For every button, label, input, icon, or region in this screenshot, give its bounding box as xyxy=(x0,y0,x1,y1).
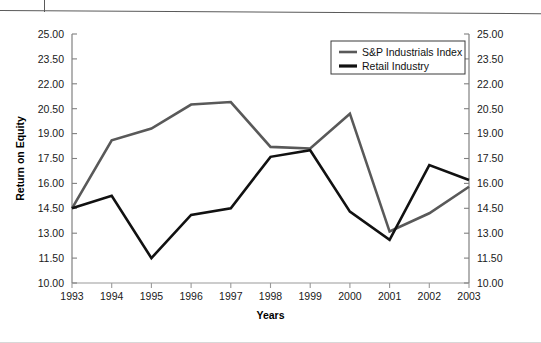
y-axis-tick-label-left: 14.50 xyxy=(38,202,64,214)
y-axis-tick-label-left: 13.00 xyxy=(38,227,64,239)
y-axis-tick-label-left: 17.50 xyxy=(38,152,64,164)
y-axis-tick-label-left: 20.50 xyxy=(38,103,64,115)
y-axis-tick-label-right: 16.00 xyxy=(477,177,503,189)
x-axis-title: Years xyxy=(256,309,284,321)
x-axis-tick-label: 2002 xyxy=(418,290,442,302)
y-axis-tick-label-right: 10.00 xyxy=(477,277,503,289)
x-axis-tick-label: 1993 xyxy=(60,290,84,302)
y-axis-tick-label-right: 25.00 xyxy=(477,28,503,40)
x-axis-tick-label: 2000 xyxy=(338,290,362,302)
x-axis-tick-label: 1995 xyxy=(140,290,164,302)
y-axis-tick-label-left: 22.00 xyxy=(38,78,64,90)
y-axis-tick-label-right: 17.50 xyxy=(477,152,503,164)
y-axis-tick-label-right: 14.50 xyxy=(477,202,503,214)
y-axis-tick-label-right: 19.00 xyxy=(477,127,503,139)
series-line-1 xyxy=(72,102,469,231)
y-axis-tick-label-left: 16.00 xyxy=(38,177,64,189)
y-axis-title: Return on Equity xyxy=(14,116,26,201)
x-axis-tick-label: 1996 xyxy=(179,290,203,302)
y-axis-tick-label-left: 10.00 xyxy=(38,277,64,289)
y-axis-tick-label-right: 22.00 xyxy=(477,78,503,90)
y-axis-tick-label-right: 13.00 xyxy=(477,227,503,239)
x-axis-tick-label: 1997 xyxy=(219,290,243,302)
series-line-2 xyxy=(72,150,469,258)
chart-svg: 25.0025.0023.5023.5022.0022.0020.5020.50… xyxy=(0,14,541,340)
y-axis-tick-label-right: 23.50 xyxy=(477,53,503,65)
y-axis-tick-label-left: 11.50 xyxy=(39,252,65,264)
x-axis-tick-label: 2001 xyxy=(378,290,402,302)
line-chart: 25.0025.0023.5023.5022.0022.0020.5020.50… xyxy=(0,14,541,340)
y-axis-tick-label-left: 19.00 xyxy=(38,127,64,139)
chart-page: 25.0025.0023.5023.5022.0022.0020.5020.50… xyxy=(0,0,541,343)
x-axis-tick-label: 1999 xyxy=(299,290,323,302)
x-axis-tick-label: 1994 xyxy=(100,290,124,302)
y-axis-tick-label-left: 25.00 xyxy=(38,28,64,40)
y-axis-tick-label-right: 11.50 xyxy=(477,252,503,264)
legend-label-1: S&P Industrials Index xyxy=(362,46,463,58)
y-axis-tick-label-left: 23.50 xyxy=(38,53,64,65)
x-axis-tick-label: 1998 xyxy=(259,290,283,302)
x-axis-tick-label: 2003 xyxy=(457,290,481,302)
legend-label-2: Retail Industry xyxy=(362,60,430,72)
y-axis-tick-label-right: 20.50 xyxy=(477,103,503,115)
